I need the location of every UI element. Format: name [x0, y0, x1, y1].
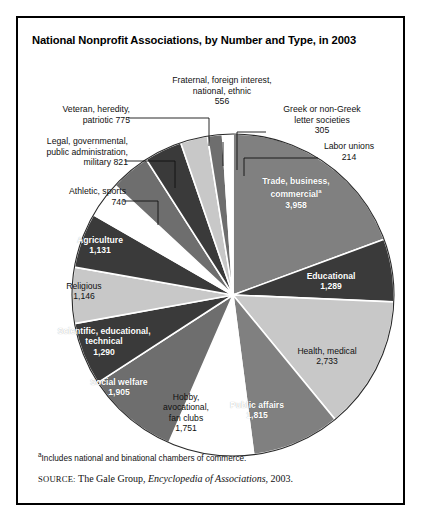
slice-label-public-affairs: Public affairs 1,815 [213, 400, 301, 421]
callout-veteran: Veteran, heredity, patriotic 775 [34, 104, 130, 125]
slice-label-agriculture-line1: Agriculture [54, 235, 146, 245]
slice-label-trade-line2: commerciala [236, 186, 356, 199]
slice-label-scientific-line1: Scientific, educational, [42, 326, 166, 336]
callout-legal-line3: military 821 [24, 157, 128, 168]
slice-label-social-welfare-line1: Social welfare [69, 377, 169, 387]
footnote-marker-a: a [318, 188, 321, 194]
callout-labor: Labor unions 214 [304, 141, 394, 162]
slice-label-social-welfare: Social welfare 1,905 [69, 377, 169, 398]
source-label: SOURCE: [38, 474, 76, 484]
callout-legal-line2: public administration, [24, 147, 128, 158]
slice-label-health: Health, medical 2,733 [275, 346, 379, 367]
slice-label-hobby: Hobby, avocational, fan clubs 1,751 [148, 392, 224, 434]
callout-veteran-line1: Veteran, heredity, [34, 104, 130, 115]
callout-fraternal-line1: Fraternal, foreign interest, [138, 75, 306, 86]
source-line: SOURCE: The Gale Group, Encyclopedia of … [38, 473, 388, 484]
callout-labor-line1: Labor unions [304, 141, 394, 152]
slice-label-scientific: Scientific, educational, technical 1,290 [42, 326, 166, 357]
source-work: Encyclopedia of Associations [148, 473, 266, 484]
footnote: aIncludes national and binational chambe… [38, 451, 388, 463]
slice-label-scientific-line3: 1,290 [42, 347, 166, 357]
slice-label-educational-line1: Educational [283, 271, 379, 281]
slice-label-public-affairs-line2: 1,815 [213, 410, 301, 420]
slice-label-agriculture: Agriculture 1,131 [54, 235, 146, 256]
slice-label-agriculture-line2: 1,131 [54, 245, 146, 255]
slice-label-religious: Religious 1,146 [42, 281, 126, 302]
slice-label-scientific-line2: technical [42, 336, 166, 346]
callout-athletic-line2: 740 [24, 197, 126, 208]
source-publisher: The Gale Group, [78, 473, 145, 484]
callout-fraternal: Fraternal, foreign interest, national, e… [138, 75, 306, 107]
callout-greek-line1: Greek or non-Greek [261, 104, 383, 115]
callout-labor-line2: 214 [304, 152, 394, 163]
slice-label-hobby-line4: 1,751 [148, 423, 224, 433]
slice-label-educational: Educational 1,289 [283, 271, 379, 292]
slice-label-public-affairs-line1: Public affairs [213, 400, 301, 410]
slice-label-religious-line2: 1,146 [42, 291, 126, 301]
callout-fraternal-line2: national, ethnic [138, 86, 306, 97]
slice-label-hobby-line2: avocational, [148, 402, 224, 412]
slice-label-social-welfare-line2: 1,905 [69, 387, 169, 397]
callout-veteran-line2: patriotic 775 [34, 115, 130, 126]
slice-label-educational-line2: 1,289 [283, 281, 379, 291]
slice-label-trade: Trade, business, commerciala 3,958 [236, 176, 356, 210]
slice-label-health-line1: Health, medical [275, 346, 379, 356]
slice-label-trade-line1: Trade, business, [236, 176, 356, 186]
footnote-text: Includes national and binational chamber… [42, 454, 247, 463]
callout-athletic-line1: Athletic, sports [24, 186, 126, 197]
source-year: , 2003. [266, 473, 294, 484]
callout-athletic: Athletic, sports 740 [24, 186, 126, 207]
slice-label-religious-line1: Religious [42, 281, 126, 291]
callout-legal: Legal, governmental, public administrati… [24, 136, 128, 168]
callout-greek: Greek or non-Greek letter societies 305 [261, 104, 383, 136]
callout-greek-line3: 305 [261, 125, 383, 136]
slice-label-hobby-line3: fan clubs [148, 413, 224, 423]
slice-label-trade-line3: 3,958 [236, 200, 356, 210]
figure-frame: National Nonprofit Associations, by Numb… [16, 16, 405, 505]
callout-legal-line1: Legal, governmental, [24, 136, 128, 147]
slice-label-health-line2: 2,733 [275, 356, 379, 366]
callout-greek-line2: letter societies [261, 115, 383, 126]
